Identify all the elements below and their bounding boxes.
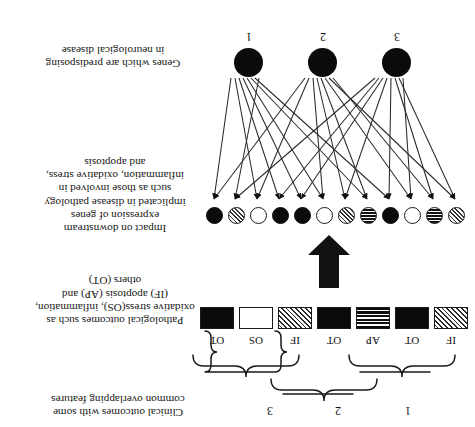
pathological-caption-line-3: (IF) apoptosis (AP) and — [3, 287, 227, 300]
pathology-box-6 — [395, 307, 429, 329]
figure-canvas: Clinical outcomes with some common overl… — [0, 0, 475, 427]
clinical-brace-group-1 — [193, 355, 299, 377]
outcome-circle-2 — [228, 207, 245, 224]
pathology-box-label-1: OT — [202, 335, 232, 346]
rotated-figure-group: Clinical outcomes with some common overl… — [0, 0, 475, 427]
outcome-circle-9 — [382, 207, 399, 224]
pathology-box-3 — [278, 307, 312, 329]
clinical-group-label-2: 2 — [329, 405, 347, 417]
outcome-circle-3 — [250, 207, 267, 224]
gene-circle-2 — [308, 48, 337, 77]
clinical-group-label-1: 1 — [399, 405, 417, 417]
genes-caption-line-2: in neurological disease — [13, 44, 213, 57]
outcome-circle-6 — [316, 207, 333, 224]
pathology-box-label-2: OS — [241, 335, 271, 346]
genes-caption-line-1: Genes which are predisposing — [13, 57, 213, 70]
pathology-box-label-7: IF — [436, 335, 466, 346]
outcome-circle-4 — [272, 207, 289, 224]
pathological-caption-line-4: others (OT) — [3, 274, 227, 287]
pathology-box-5 — [356, 307, 390, 329]
clinical-brace-group-2 — [271, 379, 377, 401]
downstream-caption-line-3: implicated in disease pathology — [3, 195, 227, 208]
pathological-caption-line-1: Pathological outcomes such as — [3, 314, 227, 327]
genes-caption: Genes which are predisposing in neurolog… — [13, 44, 213, 70]
outcome-circle-11 — [426, 207, 443, 224]
gene-label-1: 1 — [240, 31, 258, 43]
downstream-impact-caption: Impact on downstream expression of genes… — [3, 156, 227, 235]
clinical-brace-group-3 — [349, 355, 455, 377]
pathological-outcomes-caption: Pathological outcomes such as oxidative … — [3, 274, 227, 327]
downstream-caption-line-4: such as those involved in — [3, 182, 227, 195]
downstream-caption-line-6: and apoptosis — [3, 156, 227, 169]
pathology-box-label-4: OT — [319, 335, 349, 346]
pathology-box-label-3: IF — [280, 335, 310, 346]
pathology-box-7 — [434, 307, 468, 329]
gene-label-2: 2 — [314, 31, 332, 43]
clinical-caption-line-2: common overlapping features — [9, 393, 227, 406]
pathology-box-2 — [239, 307, 273, 329]
clinical-outcomes-caption: Clinical outcomes with some common overl… — [9, 393, 227, 419]
outcome-circle-12 — [448, 207, 465, 224]
outcome-circle-10 — [404, 207, 421, 224]
pathology-box-4 — [317, 307, 351, 329]
pathology-box-label-5: AP — [358, 335, 388, 346]
gene-circle-1 — [234, 48, 263, 77]
downstream-caption-line-5: inflammation, oxidative stress, — [3, 169, 227, 182]
downstream-caption-line-2: expression of genes — [3, 209, 227, 222]
clinical-group-label-3: 3 — [261, 405, 279, 417]
outcome-circle-8 — [360, 207, 377, 224]
gene-label-3: 3 — [388, 31, 406, 43]
outcome-circle-7 — [338, 207, 355, 224]
outcome-circle-5 — [294, 207, 311, 224]
clinical-caption-line-1: Clinical outcomes with some — [9, 406, 227, 419]
gene-to-outcome-arrows — [214, 78, 455, 199]
pathological-caption-line-2: oxidative stress(OS), inflammation, — [3, 301, 227, 314]
pathology-box-label-6: OT — [397, 335, 427, 346]
big-down-arrow — [308, 235, 350, 288]
gene-circle-3 — [382, 48, 411, 77]
downstream-caption-line-1: Impact on downstream — [3, 222, 227, 235]
